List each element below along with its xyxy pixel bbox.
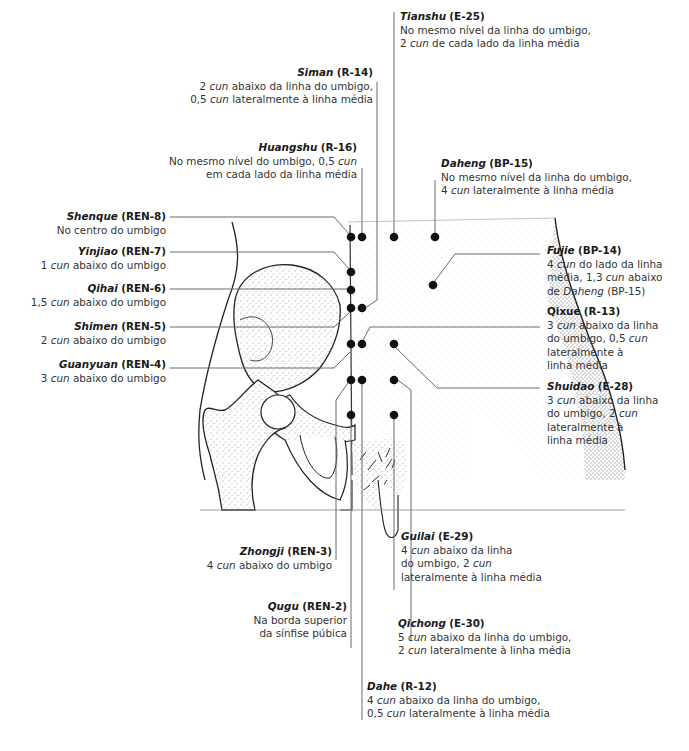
point-name: Tianshu bbox=[400, 10, 446, 22]
point-code: (E-29) bbox=[438, 530, 473, 542]
point-desc-line: linha média bbox=[547, 359, 658, 373]
point-code: (REN-7) bbox=[121, 245, 166, 257]
label-daheng: Daheng (BP-15) No mesmo nível da linha d… bbox=[441, 157, 632, 198]
point-desc-line: média, 1,3 cun abaixo bbox=[547, 271, 662, 285]
point-code: (REN-6) bbox=[121, 282, 166, 294]
point-tianshu bbox=[390, 233, 399, 242]
point-code: (REN-3) bbox=[287, 545, 332, 557]
point-name: Shenque bbox=[67, 210, 118, 222]
point-guilai bbox=[390, 376, 399, 385]
label-shenque: Shenque (REN-8) No centro do umbigo bbox=[57, 210, 166, 237]
point-code: (R-12) bbox=[400, 680, 436, 692]
point-desc-line: 5 cun abaixo da linha do umbigo, bbox=[398, 631, 571, 645]
point-code: (BP-15) bbox=[489, 157, 533, 169]
label-qugu: Qugu (REN-2) Na borda superior da sínfis… bbox=[253, 600, 347, 641]
point-name: Siman bbox=[297, 66, 333, 78]
point-desc-line: do umbigo, 2 cun bbox=[401, 557, 542, 571]
point-qichong bbox=[390, 411, 399, 420]
point-name: Zhongji bbox=[240, 545, 284, 557]
point-desc-line: 2 cun de cada lado da linha média bbox=[400, 37, 591, 51]
label-tianshu: Tianshu (E-25) No mesmo nível da linha d… bbox=[400, 10, 591, 51]
point-name: Qihai bbox=[87, 282, 117, 294]
point-desc-line: Na borda superior bbox=[253, 614, 347, 628]
label-dahe: Dahe (R-12) 4 cun abaixo da linha do umb… bbox=[367, 680, 550, 721]
point-desc-line: 4 cun abaixo da linha do umbigo, bbox=[367, 694, 550, 708]
point-desc-line: No mesmo nível da linha do umbigo, bbox=[400, 24, 591, 38]
point-name: Qichong bbox=[398, 617, 446, 629]
point-name: Yinjiao bbox=[78, 245, 118, 257]
point-desc-line: de Daheng (BP-15) bbox=[547, 285, 662, 299]
point-name: Fujie bbox=[547, 244, 575, 256]
label-guanyuan: Guanyuan (REN-4) 3 cun abaixo do umbigo bbox=[41, 358, 166, 385]
label-guilai: Guilai (E-29) 4 cun abaixo da linha do u… bbox=[401, 530, 542, 584]
label-siman: Siman (R-14) 2 cun abaixo da linha do um… bbox=[190, 66, 373, 107]
point-zhongji bbox=[347, 376, 356, 385]
femur-bone bbox=[203, 380, 295, 510]
label-shimen: Shimen (REN-5) 2 cun abaixo do umbigo bbox=[41, 320, 166, 347]
point-name: Qugu bbox=[268, 600, 299, 612]
point-name: Shuidao bbox=[547, 380, 594, 392]
point-desc-line: 1 cun abaixo do umbigo bbox=[41, 259, 166, 273]
label-qichong: Qichong (E-30) 5 cun abaixo da linha do … bbox=[398, 617, 571, 658]
point-desc-line: da sínfise púbica bbox=[253, 627, 347, 641]
point-name: Huangshu bbox=[258, 141, 317, 153]
point-name: Guanyuan bbox=[59, 358, 118, 370]
point-qugu bbox=[347, 411, 356, 420]
point-code: (REN-4) bbox=[121, 358, 166, 370]
point-desc-line: lateralmente à linha média bbox=[401, 571, 542, 585]
point-code: (R-16) bbox=[321, 141, 357, 153]
point-huangshu bbox=[358, 233, 367, 242]
point-desc-line: do umbigo, 2 cun bbox=[547, 407, 658, 421]
point-desc-line: No mesmo nível do umbigo, 0,5 cun bbox=[169, 155, 357, 169]
point-desc-line: 0,5 cun lateralmente à linha média bbox=[190, 93, 373, 107]
point-desc-line: 2 cun lateralmente à linha média bbox=[398, 644, 571, 658]
point-siman bbox=[358, 304, 367, 313]
point-desc-line: 0,5 cun lateralmente à linha média bbox=[367, 707, 550, 721]
point-fujie bbox=[429, 281, 438, 290]
point-yinjiao bbox=[347, 268, 356, 277]
point-code: (E-25) bbox=[449, 10, 484, 22]
point-desc-line: 3 cun abaixo do umbigo bbox=[41, 372, 166, 386]
point-code: (REN-2) bbox=[302, 600, 347, 612]
point-shenque bbox=[347, 233, 356, 242]
label-qihai: Qihai (REN-6) 1,5 cun abaixo do umbigo bbox=[31, 282, 166, 309]
point-desc-line: 3 cun abaixo da linha bbox=[547, 394, 658, 408]
point-desc-line: 4 cun abaixo da linha bbox=[401, 544, 542, 558]
point-desc-line: 4 cun abaixo do umbigo bbox=[207, 559, 332, 573]
point-name: Daheng bbox=[441, 157, 486, 169]
point-code: (E-28) bbox=[598, 380, 633, 392]
point-shuidao bbox=[390, 340, 399, 349]
point-guanyuan bbox=[347, 340, 356, 349]
point-name: Shimen bbox=[74, 320, 118, 332]
point-dahe bbox=[358, 376, 367, 385]
label-yinjiao: Yinjiao (REN-7) 1 cun abaixo do umbigo bbox=[41, 245, 166, 272]
point-name: Qixue bbox=[547, 305, 581, 317]
point-code: (R-14) bbox=[337, 66, 373, 78]
point-code: (REN-8) bbox=[121, 210, 166, 222]
label-zhongji: Zhongji (REN-3) 4 cun abaixo do umbigo bbox=[207, 545, 332, 572]
point-code: (E-30) bbox=[449, 617, 484, 629]
point-desc-line: 2 cun abaixo do umbigo bbox=[41, 334, 166, 348]
point-desc-line: linha média bbox=[547, 434, 658, 448]
point-qixue bbox=[358, 340, 367, 349]
point-code: (REN-5) bbox=[121, 320, 166, 332]
point-desc-line: lateralmente à bbox=[547, 346, 658, 360]
point-desc-line: 1,5 cun abaixo do umbigo bbox=[31, 296, 166, 310]
point-name: Dahe bbox=[367, 680, 397, 692]
point-desc-line: 2 cun abaixo da linha do umbigo, bbox=[190, 80, 373, 94]
point-name: Guilai bbox=[401, 530, 435, 542]
point-qihai bbox=[347, 286, 356, 295]
point-shimen bbox=[347, 304, 356, 313]
label-fujie: Fujie (BP-14) 4 cun do lado da linha méd… bbox=[547, 244, 662, 298]
point-desc-line: 4 cun lateralmente à linha média bbox=[441, 184, 632, 198]
point-desc-line: lateralmente à bbox=[547, 421, 658, 435]
point-code: (BP-14) bbox=[578, 244, 622, 256]
point-desc-line: do umbigo, 0,5 cun bbox=[547, 332, 658, 346]
label-huangshu: Huangshu (R-16) No mesmo nível do umbigo… bbox=[169, 141, 357, 182]
point-desc-line: em cada lado da linha média bbox=[169, 168, 357, 182]
point-desc-line: 4 cun do lado da linha bbox=[547, 258, 662, 272]
point-daheng bbox=[431, 233, 440, 242]
label-shuidao: Shuidao (E-28) 3 cun abaixo da linha do … bbox=[547, 380, 658, 448]
label-qixue: Qixue (R-13) 3 cun abaixo da linha do um… bbox=[547, 305, 658, 373]
point-code: (R-13) bbox=[584, 305, 620, 317]
